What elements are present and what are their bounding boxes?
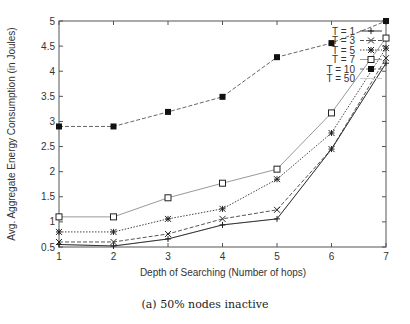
open-square-marker-icon: [56, 214, 62, 220]
y-tick-label: 3.5: [41, 91, 55, 102]
plus-marker-icon: [220, 222, 226, 228]
open-square-marker-icon: [383, 35, 389, 41]
y-tick-label: 0.5: [41, 242, 55, 253]
plus-marker-icon: [368, 28, 374, 34]
x-tick-label: 7: [383, 251, 389, 262]
y-tick-label: 2: [49, 166, 55, 177]
open-square-marker-icon: [165, 195, 171, 201]
star-marker-icon: [329, 130, 335, 136]
series-t-1: [56, 60, 389, 249]
star-marker-icon: [383, 45, 389, 51]
filled-square-marker-icon: [220, 94, 226, 100]
open-square-marker-icon: [329, 110, 335, 116]
x-tick-label: 4: [220, 251, 226, 262]
y-tick-label: 1: [49, 216, 55, 227]
filled-square-marker-icon: [56, 123, 62, 129]
figure-caption: (a) 50% nodes inactive: [0, 298, 410, 311]
x-tick-label: 6: [329, 251, 335, 262]
open-square-marker-icon: [274, 166, 280, 172]
x-axis-title: Depth of Searching (Number of hops): [140, 267, 306, 278]
line-chart: 0.511.522.533.544.55 1234567 T = 1T = 3T…: [0, 0, 410, 324]
y-tick-label: 4: [49, 66, 55, 77]
plus-marker-icon: [165, 236, 171, 242]
filled-square-marker-icon: [165, 109, 171, 115]
star-marker-icon: [220, 206, 226, 212]
series-line: [59, 58, 386, 242]
filled-square-marker-icon: [274, 54, 280, 60]
open-square-marker-icon: [220, 180, 226, 186]
y-tick-label: 1.5: [41, 191, 55, 202]
y-tick-label: 5: [49, 16, 55, 27]
open-square-marker-icon: [111, 214, 117, 220]
x-tick-label: 2: [111, 251, 117, 262]
open-square-marker-icon: [368, 57, 374, 63]
y-axis-title: Avg. Aggregate Energy Consumption (in Jo…: [6, 27, 17, 240]
filled-square-marker-icon: [383, 18, 389, 24]
star-marker-icon: [368, 47, 374, 53]
filled-square-marker-icon: [111, 123, 117, 129]
filled-square-marker-icon: [368, 66, 374, 72]
x-tick-label: 3: [165, 251, 171, 262]
y-tick-label: 3: [49, 116, 55, 127]
x-tick-label: 5: [274, 251, 280, 262]
star-marker-icon: [111, 229, 117, 235]
y-tick-label: 2.5: [41, 141, 55, 152]
x-tick-label: 1: [56, 251, 62, 262]
star-marker-icon: [165, 216, 171, 222]
legend-label: T = 50: [327, 73, 356, 84]
star-marker-icon: [274, 176, 280, 182]
star-marker-icon: [56, 229, 62, 235]
y-tick-label: 4.5: [41, 41, 55, 52]
